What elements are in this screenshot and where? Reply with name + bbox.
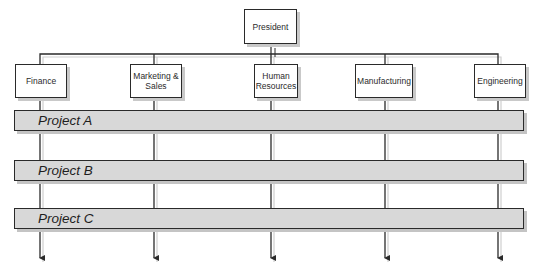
matrix-org-chart: President Finance Marketing & Sales Huma… (0, 0, 538, 275)
department-box-marketing-sales: Marketing & Sales (130, 64, 182, 98)
department-box-manufacturing: Manufacturing (355, 64, 413, 98)
department-label: Human Resources (255, 71, 297, 91)
department-label: Manufacturing (357, 76, 411, 86)
project-label: Project C (15, 211, 94, 226)
department-label: Marketing & Sales (133, 71, 179, 91)
project-bar-b: Project B (14, 160, 524, 181)
department-label: Engineering (477, 76, 522, 86)
project-bar-c: Project C (14, 208, 524, 229)
department-box-engineering: Engineering (474, 64, 526, 98)
project-label: Project B (15, 163, 93, 178)
department-box-finance: Finance (15, 64, 67, 98)
project-label: Project A (15, 113, 92, 128)
department-label: Finance (26, 76, 56, 86)
president-label: President (253, 22, 289, 32)
department-box-human-resources: Human Resources (254, 64, 298, 98)
project-bar-a: Project A (14, 110, 524, 131)
department-connector (40, 54, 498, 64)
president-box: President (244, 9, 297, 44)
